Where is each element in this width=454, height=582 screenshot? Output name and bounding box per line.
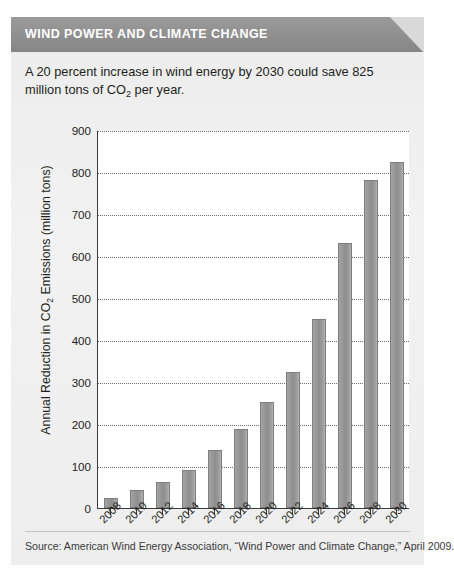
plot-area xyxy=(97,131,409,509)
bar-chart: Annual Reduction in CO2 Emissions (milli… xyxy=(11,113,424,533)
deck-co2-subscript: 2 xyxy=(126,89,131,99)
y-axis-tick-label: 500 xyxy=(39,292,91,305)
deck-line-1: A 20 percent increase in wind energy by … xyxy=(25,64,374,79)
y-axis-tick-label: 200 xyxy=(39,418,91,431)
source-note: Source: American Wind Energy Association… xyxy=(25,540,454,552)
deck-line-2-post: per year. xyxy=(131,82,184,97)
y-axis-tick-label: 400 xyxy=(39,334,91,347)
bar xyxy=(260,402,274,508)
bar xyxy=(312,319,326,508)
bar-series xyxy=(98,131,409,508)
y-axis-tick-label: 900 xyxy=(39,124,91,137)
y-axis-tick-labels: 0100200300400500600700800900 xyxy=(33,131,91,509)
deck-line-2-pre: million tons of CO xyxy=(25,82,126,97)
y-axis-tick-label: 700 xyxy=(39,208,91,221)
bar xyxy=(364,180,378,508)
bar xyxy=(208,450,222,508)
bar xyxy=(286,372,300,509)
bar xyxy=(390,162,404,509)
y-axis-tick-label: 600 xyxy=(39,250,91,263)
infographic-card: WIND POWER AND CLIMATE CHANGE A 20 perce… xyxy=(11,17,424,565)
header-bar: WIND POWER AND CLIMATE CHANGE xyxy=(11,17,424,52)
bar xyxy=(234,429,248,508)
page-title: WIND POWER AND CLIMATE CHANGE xyxy=(25,27,268,41)
y-axis-tick-label: 300 xyxy=(39,376,91,389)
y-axis-tick-label: 800 xyxy=(39,166,91,179)
y-axis-tick-label: 0 xyxy=(39,502,91,515)
bar xyxy=(338,243,352,508)
y-axis-tick-label: 100 xyxy=(39,460,91,473)
deck-text: A 20 percent increase in wind energy by … xyxy=(25,63,397,100)
source-divider xyxy=(25,531,410,532)
